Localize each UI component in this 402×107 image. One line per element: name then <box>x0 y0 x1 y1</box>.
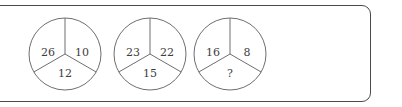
circle-figure-2: 23 22 15 <box>113 17 187 91</box>
puzzle-image: 26 10 12 23 22 15 16 8 <box>0 0 402 107</box>
segment-value-upper-left: 16 <box>199 47 227 59</box>
segment-value-bottom: 15 <box>136 68 164 80</box>
segment-value-upper-right: 10 <box>68 47 96 59</box>
circle-figure-1: 26 10 12 <box>28 17 102 91</box>
segment-value-upper-right: 8 <box>233 47 261 59</box>
segment-value-upper-left: 26 <box>34 47 62 59</box>
segment-value-upper-right: 22 <box>153 47 181 59</box>
circles-row: 26 10 12 23 22 15 16 8 <box>0 0 402 107</box>
segment-value-bottom: 12 <box>51 68 79 80</box>
circle-figure-3: 16 8 ? <box>193 17 267 91</box>
segment-value-upper-left: 23 <box>119 47 147 59</box>
segment-value-unknown: ? <box>216 68 244 80</box>
